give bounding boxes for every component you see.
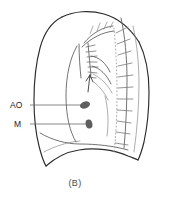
aorta-marker <box>79 100 91 110</box>
lateral-chest-diagram: AO M (B) <box>0 0 169 199</box>
upper-rib-arcs <box>82 22 114 47</box>
ao-label: AO <box>10 100 23 110</box>
figure-container: AO M (B) <box>0 0 169 199</box>
figure-caption: (B) <box>69 178 82 188</box>
ao-callout: AO <box>10 100 91 110</box>
mass-marker <box>85 119 93 129</box>
rib-tick-marks <box>115 27 133 145</box>
tracheal-tick-marks <box>86 45 98 78</box>
trachea-line <box>79 43 91 78</box>
m-label: M <box>14 119 21 129</box>
vertebral-column-dotted-line <box>114 28 117 152</box>
m-callout: M <box>14 119 93 129</box>
